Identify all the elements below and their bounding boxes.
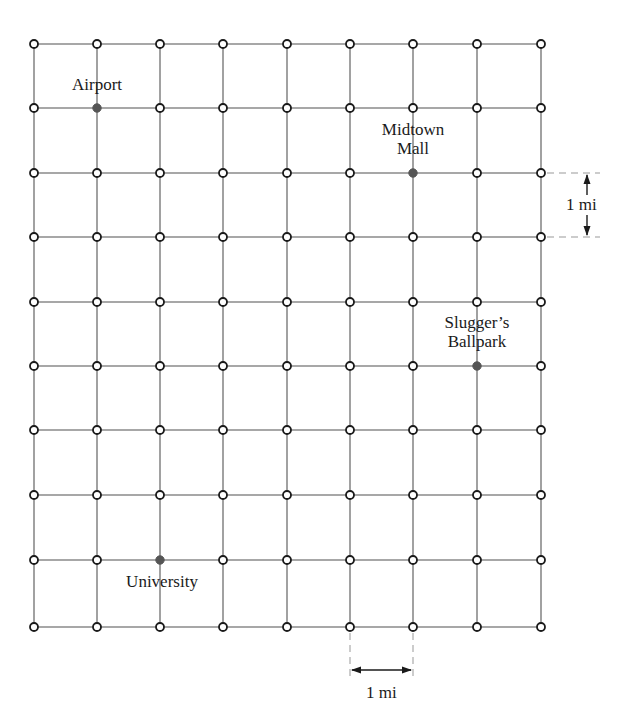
intersection-node	[219, 298, 227, 306]
intersection-node	[93, 298, 101, 306]
intersection-node	[219, 426, 227, 434]
intersection-node	[346, 104, 354, 112]
label-line: Mall	[382, 139, 444, 158]
street-grid-map	[0, 0, 637, 724]
intersection-node	[473, 556, 481, 564]
intersection-node	[156, 169, 164, 177]
intersection-node	[346, 426, 354, 434]
intersection-node	[409, 40, 417, 48]
intersection-node	[346, 362, 354, 370]
intersection-node	[473, 623, 481, 631]
intersection-node	[30, 623, 38, 631]
intersection-node	[283, 426, 291, 434]
location-dot-midtown-mall	[409, 169, 417, 177]
intersection-node	[537, 40, 545, 48]
intersection-node	[283, 623, 291, 631]
intersection-node	[409, 104, 417, 112]
intersection-node	[283, 233, 291, 241]
intersection-node	[537, 491, 545, 499]
label-line: Airport	[72, 75, 122, 94]
intersection-node	[283, 104, 291, 112]
label-midtown-mall: Midtown Mall	[382, 120, 444, 158]
arrow-up-icon	[584, 174, 591, 184]
intersection-node	[93, 362, 101, 370]
intersection-node	[219, 623, 227, 631]
scale-markers	[350, 173, 600, 678]
label-line: Ballpark	[445, 332, 510, 351]
intersection-node	[156, 40, 164, 48]
intersection-node	[30, 298, 38, 306]
intersection-node	[219, 40, 227, 48]
label-line: Slugger’s	[445, 313, 510, 332]
intersection-node	[30, 40, 38, 48]
intersection-node	[283, 556, 291, 564]
label-airport: Airport	[72, 75, 122, 94]
intersection-node	[473, 426, 481, 434]
intersection-node	[283, 491, 291, 499]
intersection-node	[409, 623, 417, 631]
intersection-node	[537, 298, 545, 306]
intersection-node	[30, 491, 38, 499]
intersection-node	[537, 233, 545, 241]
intersection-node	[30, 104, 38, 112]
intersection-node	[473, 104, 481, 112]
intersection-node	[346, 298, 354, 306]
intersection-node	[93, 426, 101, 434]
arrow-right-icon	[402, 667, 412, 674]
intersection-node	[346, 556, 354, 564]
scale-label-horizontal: 1 mi	[366, 683, 397, 702]
intersection-node	[537, 623, 545, 631]
intersection-node	[283, 298, 291, 306]
scale-label-vertical: 1 mi	[566, 195, 597, 214]
intersection-node	[283, 169, 291, 177]
intersection-node	[156, 362, 164, 370]
intersection-node	[219, 362, 227, 370]
arrow-left-icon	[351, 667, 361, 674]
intersection-node	[219, 491, 227, 499]
label-line: Midtown	[382, 120, 444, 139]
arrow-down-icon	[584, 226, 591, 236]
intersection-node	[409, 491, 417, 499]
intersection-node	[346, 623, 354, 631]
intersection-node	[283, 40, 291, 48]
intersection-node	[156, 491, 164, 499]
intersection-node	[409, 233, 417, 241]
intersection-node	[409, 298, 417, 306]
intersection-node	[219, 104, 227, 112]
label-university: University	[126, 572, 198, 591]
intersection-node	[30, 362, 38, 370]
intersection-node	[409, 556, 417, 564]
intersection-node	[156, 104, 164, 112]
intersection-node	[219, 169, 227, 177]
intersection-node	[30, 169, 38, 177]
intersection-node	[346, 233, 354, 241]
intersection-node	[93, 40, 101, 48]
intersection-node	[156, 623, 164, 631]
intersection-node	[473, 491, 481, 499]
intersection-node	[93, 623, 101, 631]
intersection-node	[219, 233, 227, 241]
intersection-node	[346, 169, 354, 177]
intersection-node	[93, 491, 101, 499]
label-line: University	[126, 572, 198, 591]
intersection-node	[346, 491, 354, 499]
intersection-node	[346, 40, 354, 48]
location-dot-slugger-s-ballpark	[473, 362, 481, 370]
intersection-node	[537, 104, 545, 112]
intersection-node	[537, 362, 545, 370]
intersection-node	[409, 426, 417, 434]
location-dot-university	[156, 556, 164, 564]
intersection-node	[537, 556, 545, 564]
intersection-node	[283, 362, 291, 370]
intersection-node	[409, 362, 417, 370]
intersection-node	[473, 298, 481, 306]
intersection-node	[219, 556, 227, 564]
label-sluggers-ballpark: Slugger’s Ballpark	[445, 313, 510, 351]
intersection-node	[30, 233, 38, 241]
intersection-node	[473, 233, 481, 241]
intersection-node	[537, 169, 545, 177]
location-dot-airport	[93, 104, 101, 112]
intersection-node	[473, 169, 481, 177]
intersection-node	[156, 298, 164, 306]
intersection-node	[30, 556, 38, 564]
